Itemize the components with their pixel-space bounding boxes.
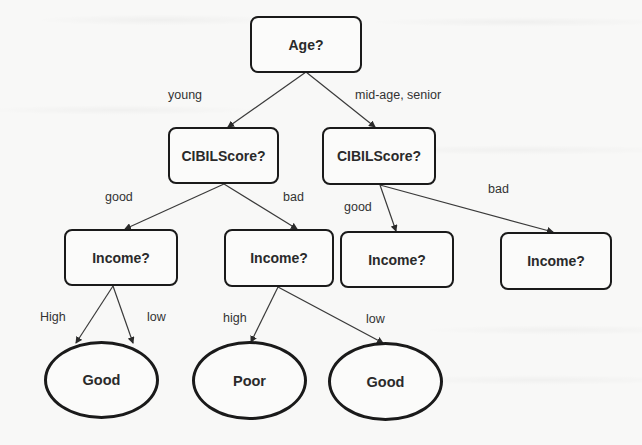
leaf-poor: Poor bbox=[192, 341, 307, 420]
edge-label-young: young bbox=[168, 88, 202, 102]
edge-income2-high bbox=[251, 287, 278, 342]
node-age: Age? bbox=[250, 16, 362, 73]
edge-cibil2-good bbox=[380, 185, 396, 231]
edge-label-low-2: low bbox=[366, 312, 385, 326]
edge-cibil1-good bbox=[125, 184, 224, 229]
decision-tree-diagram: young mid-age, senior good bad good bad … bbox=[0, 0, 642, 445]
node-income-older-good: Income? bbox=[340, 231, 454, 288]
node-cibil-score-young: CIBILScore? bbox=[168, 127, 279, 184]
node-income-older-bad: Income? bbox=[500, 232, 612, 290]
edge-label-good-1: good bbox=[105, 190, 133, 204]
edge-label-good-2: good bbox=[344, 200, 372, 214]
leaf-good-1: Good bbox=[44, 341, 159, 419]
edge-label-bad-1: bad bbox=[283, 190, 304, 204]
edge-age-young bbox=[228, 72, 306, 127]
node-cibil-score-older: CIBILScore? bbox=[322, 127, 436, 185]
edge-income1-low bbox=[113, 286, 133, 343]
edge-label-high-2: high bbox=[223, 311, 247, 325]
edge-cibil2-bad bbox=[380, 185, 553, 232]
node-income-young-good: Income? bbox=[64, 229, 178, 286]
edge-label-high-1: High bbox=[40, 310, 66, 324]
edge-label-mid-age-senior: mid-age, senior bbox=[355, 88, 441, 102]
node-income-young-bad: Income? bbox=[224, 229, 334, 287]
edge-label-low-1: low bbox=[147, 310, 166, 324]
edge-label-bad-2: bad bbox=[488, 182, 509, 196]
edge-income1-high bbox=[76, 286, 113, 343]
leaf-good-2: Good bbox=[328, 342, 443, 421]
